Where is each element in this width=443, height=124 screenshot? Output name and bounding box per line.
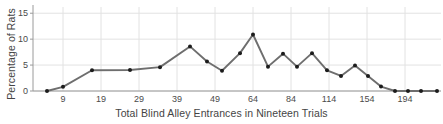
data-point [325, 68, 329, 72]
plot-area: 051015 9192939496484114154194 [0, 0, 443, 124]
data-point [435, 89, 439, 93]
line-chart: 051015 9192939496484114154194 Total Blin… [0, 0, 443, 124]
data-point [266, 65, 270, 69]
x-tick-label: 9 [60, 94, 65, 104]
x-tick-label: 194 [397, 94, 412, 104]
x-tick-label: 39 [172, 94, 182, 104]
data-point [353, 64, 357, 68]
x-tick-label: 29 [134, 94, 144, 104]
x-tick-label: 114 [322, 94, 336, 104]
x-tick-label: 64 [248, 94, 258, 104]
data-point [419, 89, 423, 93]
x-tick-labels: 9192939496484114154194 [60, 94, 412, 104]
data-point [220, 69, 224, 73]
data-point [238, 51, 242, 55]
y-tick-label: 5 [23, 60, 28, 70]
data-point [205, 59, 209, 63]
data-markers [45, 32, 439, 93]
data-point [379, 85, 383, 89]
data-point [295, 65, 299, 69]
data-point [281, 52, 285, 56]
data-point [366, 74, 370, 78]
data-point [310, 51, 314, 55]
data-point [61, 85, 65, 89]
y-tick-label: 10 [18, 34, 28, 44]
axis-lines [33, 5, 441, 91]
data-point [251, 32, 255, 36]
x-tick-label: 154 [359, 94, 374, 104]
data-point [158, 65, 162, 69]
x-tick-label: 49 [210, 94, 220, 104]
data-point [90, 68, 94, 72]
data-point [45, 89, 49, 93]
data-line [47, 34, 437, 91]
data-point [393, 89, 397, 93]
x-tick-label: 19 [96, 94, 106, 104]
y-axis-title: Percentage of Rats [5, 0, 17, 109]
y-tick-label: 15 [18, 8, 28, 18]
gridlines [33, 7, 441, 91]
y-tick-labels: 051015 [18, 8, 33, 96]
data-point [339, 74, 343, 78]
data-point [188, 44, 192, 48]
y-tick-label: 0 [23, 86, 28, 96]
data-point [406, 89, 410, 93]
data-point [128, 68, 132, 72]
x-tick-label: 84 [286, 94, 296, 104]
x-axis-title: Total Blind Alley Entrances in Nineteen … [0, 107, 443, 119]
